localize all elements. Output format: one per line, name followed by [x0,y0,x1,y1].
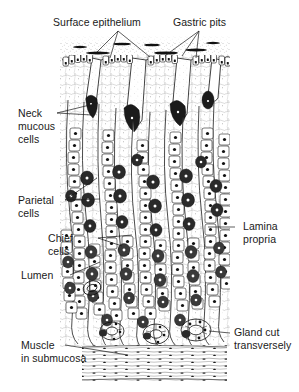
label-lumen: Lumen [21,269,53,282]
label-lamina-propria-line2: propria [243,233,276,246]
mucosa-body [60,53,232,350]
label-neck-mucous-cells-line2: mucous [18,120,55,133]
figure-container: Surface epithelium Gastric pits Neck muc… [0,0,299,392]
label-lamina-propria-line1: Lamina [243,220,278,233]
label-muscle-line2: in submucosa [21,352,86,365]
label-neck-mucous-cells-line1: Neck [18,107,42,120]
label-muscle-line1: Muscle [21,339,55,352]
label-gland-cut-line1: Gland cut [234,326,279,339]
muscle-in-submucosa-band [82,345,227,382]
label-gastric-pits: Gastric pits [173,16,226,29]
label-chief-cells-line1: Chief [48,232,73,245]
label-parietal-cells-line1: Parietal [18,194,54,207]
label-parietal-cells-line2: cells [18,207,39,220]
label-neck-mucous-cells-line3: cells [18,133,39,146]
label-gland-cut-line2: transversely [234,339,291,352]
label-chief-cells-line2: cells [48,245,69,258]
label-surface-epithelium: Surface epithelium [53,16,141,29]
